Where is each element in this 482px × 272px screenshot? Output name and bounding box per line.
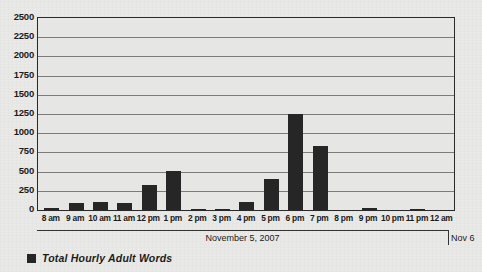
y-tick-label: 1500 [0, 89, 34, 99]
y-tick-label: 1000 [0, 127, 34, 137]
bar-slot [113, 18, 137, 210]
bar[interactable] [410, 209, 425, 210]
legend-label-total-hourly-adult-words: Total Hourly Adult Words [42, 252, 172, 264]
y-tick-label: 2000 [0, 50, 34, 60]
bar-slot [64, 18, 88, 210]
bar-slot [40, 18, 64, 210]
y-tick-label: 1250 [0, 108, 34, 118]
bar[interactable] [117, 203, 132, 210]
bar-slot [259, 18, 283, 210]
bar-slot [406, 18, 430, 210]
x-tick-label: 5 pm [258, 213, 282, 224]
y-tick-label: 1750 [0, 70, 34, 80]
bar-slot [162, 18, 186, 210]
y-tick-label: 0 [0, 204, 34, 214]
x-tick-label: 8 am [39, 213, 63, 224]
plot-area [37, 17, 455, 211]
bar[interactable] [166, 171, 181, 210]
x-tick-label: 10 am [87, 213, 111, 224]
bar-slot [284, 18, 308, 210]
x-tick-label: 7 pm [307, 213, 331, 224]
bar-slot [88, 18, 112, 210]
x-tick-label: 10 pm [380, 213, 404, 224]
date-main-label: November 5, 2007 [37, 232, 448, 245]
bar-slot [137, 18, 161, 210]
y-tick-label: 500 [0, 166, 34, 176]
bar-slot [430, 18, 454, 210]
x-tick-label: 1 pm [161, 213, 185, 224]
date-next-label: Nov 6 [451, 232, 475, 245]
x-tick-label: 11 pm [405, 213, 429, 224]
chart-figure: 25002250200017501500125010007505002500 8… [0, 0, 482, 272]
bar[interactable] [44, 208, 59, 210]
x-tick-label: 11 am [112, 213, 136, 224]
bar-slot [357, 18, 381, 210]
bar[interactable] [313, 146, 328, 211]
bar-slot [381, 18, 405, 210]
x-tick-label: 8 pm [331, 213, 355, 224]
x-tick-label: 6 pm [283, 213, 307, 224]
chart-legend: Total Hourly Adult Words [27, 252, 172, 264]
bar[interactable] [191, 209, 206, 210]
y-tick-label: 750 [0, 146, 34, 156]
bar[interactable] [288, 114, 303, 210]
x-tick-label: 12 am [429, 213, 453, 224]
x-tick-label: 9 am [63, 213, 87, 224]
bar-series [38, 18, 454, 210]
date-axis-band: November 5, 2007 Nov 6 [37, 230, 455, 247]
bar[interactable] [239, 202, 254, 210]
bar-slot [186, 18, 210, 210]
legend-swatch-total-hourly-adult-words [27, 254, 36, 263]
x-tick-label: 9 pm [356, 213, 380, 224]
bar-slot [332, 18, 356, 210]
bar[interactable] [69, 203, 84, 210]
bar[interactable] [142, 185, 157, 210]
bar-slot [235, 18, 259, 210]
y-tick-label: 2500 [0, 12, 34, 22]
bar-slot [210, 18, 234, 210]
bar[interactable] [264, 179, 279, 210]
y-tick-label: 2250 [0, 31, 34, 41]
y-axis: 25002250200017501500125010007505002500 [0, 0, 34, 230]
x-tick-label: 2 pm [185, 213, 209, 224]
y-tick-label: 250 [0, 185, 34, 195]
bar[interactable] [93, 202, 108, 210]
x-tick-label: 12 pm [136, 213, 160, 224]
bar-slot [308, 18, 332, 210]
x-tick-label: 3 pm [209, 213, 233, 224]
date-divider [448, 230, 449, 245]
x-axis: 8 am9 am10 am11 am12 pm1 pm2 pm3 pm4 pm5… [37, 213, 455, 226]
x-tick-label: 4 pm [234, 213, 258, 224]
bar[interactable] [362, 208, 377, 210]
bar[interactable] [215, 209, 230, 210]
